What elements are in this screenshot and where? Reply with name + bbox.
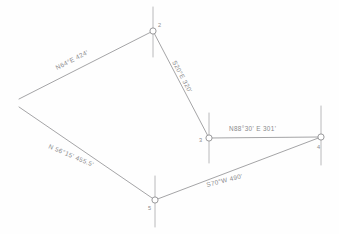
station-label-3: 3 — [199, 137, 202, 143]
station-marker-2[interactable] — [150, 28, 156, 34]
course-label-2-to-3: S20°E 320' — [171, 59, 194, 94]
course-label-4-to-5: S70°W 490' — [206, 172, 244, 188]
leg-5-to-west — [19, 107, 155, 200]
station-marker-4[interactable] — [318, 134, 324, 140]
traverse-legs — [19, 31, 321, 200]
course-label-5-to-west: N 56°15' 455.5' — [48, 142, 95, 167]
leg-3-to-4 — [209, 137, 321, 138]
station-marker-5[interactable] — [152, 197, 158, 203]
leg-west-to-2 — [19, 31, 153, 99]
survey-sketch-sheet: 2 3 4 5 N64°E 424' S20°E 320' N88°30' E … — [0, 0, 339, 234]
traverse-drawing: 2 3 4 5 N64°E 424' S20°E 320' N88°30' E … — [0, 0, 339, 234]
leg-2-to-3 — [153, 31, 209, 138]
station-label-5: 5 — [148, 205, 151, 211]
station-numbers: 2 3 4 5 — [148, 22, 320, 211]
course-label-west-to-2: N64°E 424' — [54, 48, 89, 70]
station-label-4: 4 — [317, 144, 320, 150]
station-label-2: 2 — [158, 22, 161, 28]
station-marker-3[interactable] — [206, 135, 212, 141]
course-label-3-to-4: N88°30' E 301' — [229, 125, 276, 132]
leg-4-to-5 — [155, 137, 321, 200]
station-tick-lines — [153, 7, 321, 227]
